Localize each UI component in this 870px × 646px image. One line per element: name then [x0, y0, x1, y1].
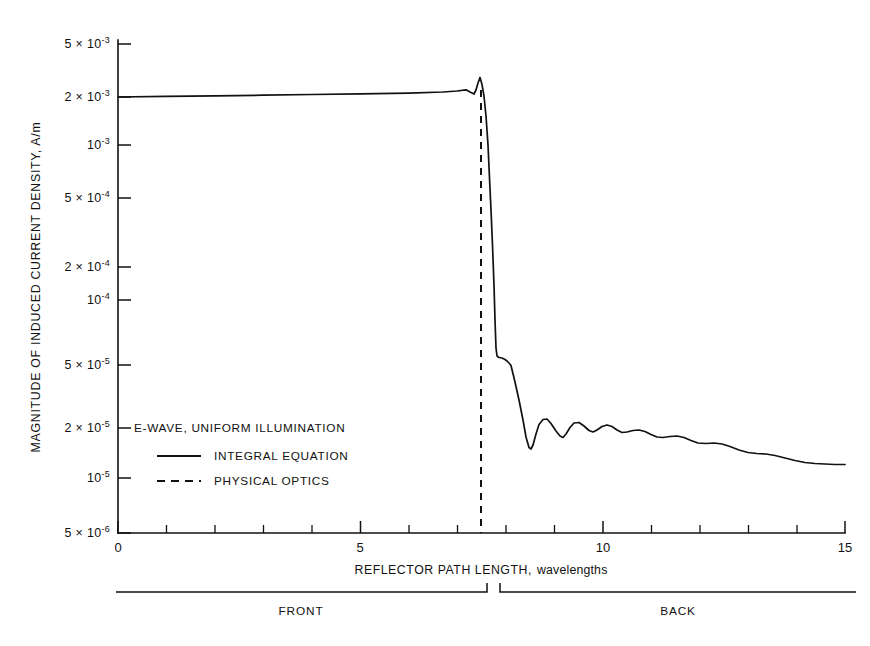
- x-tick-label-0: 0: [114, 540, 121, 555]
- x-axis-title-main: REFLECTOR PATH LENGTH,: [354, 563, 531, 577]
- legend-title: E-WAVE, UNIFORM ILLUMINATION: [134, 421, 345, 435]
- figure-root: 5 × 10-3 2 × 10-3 10-3 5 × 10-4 2 × 10-4…: [0, 0, 870, 646]
- legend-label-integral-equation: INTEGRAL EQUATION: [214, 449, 348, 463]
- x-tick-label-15: 15: [838, 540, 852, 555]
- legend-label-physical-optics: PHYSICAL OPTICS: [214, 474, 330, 488]
- x-axis-title-unit: wavelengths: [536, 563, 608, 577]
- y-axis-title: MAGNITUDE OF INDUCED CURRENT DENSITY, A/…: [29, 122, 43, 453]
- x-axis-title: REFLECTOR PATH LENGTH,wavelengths: [354, 563, 607, 577]
- chart-canvas: 5 × 10-3 2 × 10-3 10-3 5 × 10-4 2 × 10-4…: [0, 0, 870, 646]
- x-tick-label-5: 5: [356, 540, 363, 555]
- x-tick-label-10: 10: [596, 540, 610, 555]
- front-region-label: FRONT: [278, 604, 323, 618]
- back-region-label: BACK: [660, 604, 696, 618]
